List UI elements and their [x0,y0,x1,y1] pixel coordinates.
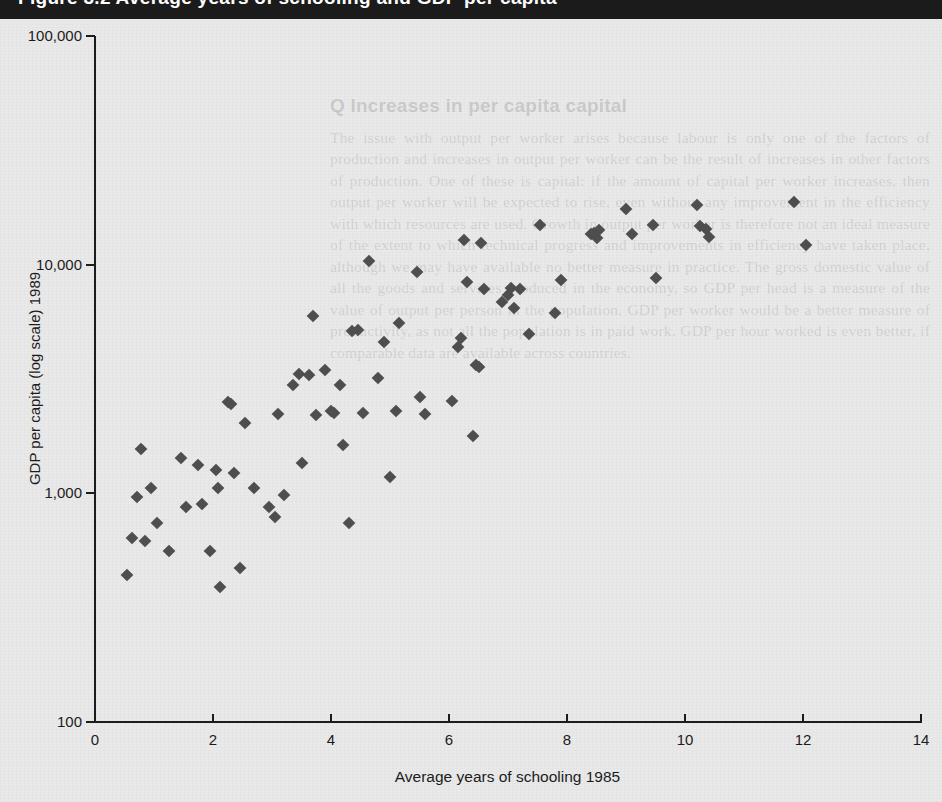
data-point [649,272,662,285]
data-point [204,545,217,558]
data-point [319,363,332,376]
data-point [800,239,813,252]
x-tick-label: 4 [311,731,351,748]
y-tick-label: 100 [12,713,82,730]
data-point [233,562,246,575]
x-tick-mark [684,714,686,723]
data-point [342,517,355,530]
data-point [390,405,403,418]
data-point [211,482,224,495]
data-point [125,531,138,544]
data-point [392,317,405,330]
data-point [227,466,240,479]
data-point [196,497,209,510]
data-point [135,443,148,456]
data-point [788,196,801,209]
y-axis-line [94,36,96,723]
y-tick-label: 100,000 [12,27,82,44]
data-point [549,307,562,320]
data-point [384,471,397,484]
data-point [446,394,459,407]
x-tick-label: 12 [783,731,823,748]
data-point [419,407,432,420]
data-point [626,228,639,241]
data-point [286,379,299,392]
scatter-plot: 1001,00010,000100,000 02468101214 GDP pe… [0,0,942,802]
data-point [555,273,568,286]
data-point [239,416,252,429]
data-point [333,379,346,392]
data-point [690,198,703,211]
data-point [357,406,370,419]
data-point [174,451,187,464]
data-point [620,202,633,215]
data-point [210,464,223,477]
data-point [513,282,526,295]
data-point [121,568,134,581]
data-point [277,489,290,502]
data-point [269,510,282,523]
data-point [372,371,385,384]
y-tick-mark [86,492,95,494]
y-tick-mark [86,35,95,37]
data-point [295,456,308,469]
data-point [307,310,320,323]
y-tick-mark [86,264,95,266]
y-axis-title: GDP per capita (log scale) 1989 [26,239,43,519]
data-point [214,580,227,593]
data-point [475,236,488,249]
x-axis-line [94,721,921,723]
x-tick-mark [448,714,450,723]
data-point [162,545,175,558]
data-point [410,265,423,278]
data-point [466,429,479,442]
x-tick-mark [212,714,214,723]
data-point [534,219,547,232]
data-point [151,517,164,530]
data-point [145,481,158,494]
y-tick-label: 10,000 [12,256,82,273]
data-point [302,369,315,382]
data-point [522,327,535,340]
data-point [310,408,323,421]
figure-page: Q Increases in per capita capital The is… [0,0,942,802]
data-point [336,439,349,452]
data-point [646,219,659,232]
x-tick-label: 2 [193,731,233,748]
y-tick-label: 1,000 [12,484,82,501]
x-tick-label: 10 [665,731,705,748]
data-point [457,234,470,247]
data-point [131,491,144,504]
data-point [139,534,152,547]
x-tick-mark [802,714,804,723]
x-tick-mark [566,714,568,723]
x-tick-mark [94,714,96,723]
x-tick-label: 14 [901,731,941,748]
x-tick-label: 0 [75,731,115,748]
x-axis-title: Average years of schooling 1985 [94,768,921,786]
x-tick-label: 6 [429,731,469,748]
data-point [460,276,473,289]
data-point [378,335,391,348]
data-point [478,283,491,296]
x-tick-mark [920,714,922,723]
data-point [192,459,205,472]
x-tick-label: 8 [547,731,587,748]
data-point [413,391,426,404]
data-point [363,254,376,267]
x-tick-mark [330,714,332,723]
data-point [248,481,261,494]
data-point [272,408,285,421]
data-point [180,501,193,514]
data-point [508,302,521,315]
